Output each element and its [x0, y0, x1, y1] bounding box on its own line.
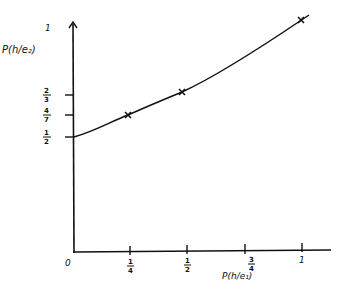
svg-text:4: 4 — [128, 267, 133, 275]
x-tick-label-1-2: 1 2 — [184, 257, 191, 274]
svg-text:3: 3 — [249, 256, 254, 264]
data-curve — [74, 15, 309, 137]
x-marker-icon — [125, 112, 131, 118]
x-marker-icon — [179, 89, 185, 95]
svg-text:1: 1 — [128, 258, 133, 266]
svg-text:1: 1 — [44, 129, 49, 137]
x-ticks — [130, 243, 302, 255]
svg-text:1: 1 — [185, 257, 190, 265]
svg-text:2: 2 — [44, 87, 49, 95]
x-tick-label-1-4: 1 4 — [127, 258, 134, 275]
data-markers — [125, 17, 304, 118]
x-axis-label: P(h/e₁) — [222, 271, 252, 281]
svg-text:7: 7 — [44, 116, 49, 124]
y-axis-label: P(h/e₂) — [2, 44, 36, 55]
y-tick-label-1: 1 — [45, 23, 51, 33]
svg-text:3: 3 — [44, 96, 49, 104]
y-tick-label-1-2: 1 2 — [43, 129, 51, 146]
chart: 1 P(h/e₂) 2 3 4 7 1 2 0 1 4 1 2 3 4 1 P(… — [0, 0, 343, 293]
x-tick-label-1: 1 — [299, 255, 305, 265]
y-tick-label-2-3: 2 3 — [43, 87, 51, 104]
y-tick-label-4-7: 4 7 — [43, 107, 51, 124]
svg-text:2: 2 — [185, 266, 190, 274]
x-marker-icon — [298, 17, 304, 23]
svg-text:4: 4 — [44, 107, 49, 115]
x-tick-label-0: 0 — [65, 258, 71, 268]
x-axis — [73, 250, 331, 252]
svg-text:2: 2 — [44, 138, 49, 146]
